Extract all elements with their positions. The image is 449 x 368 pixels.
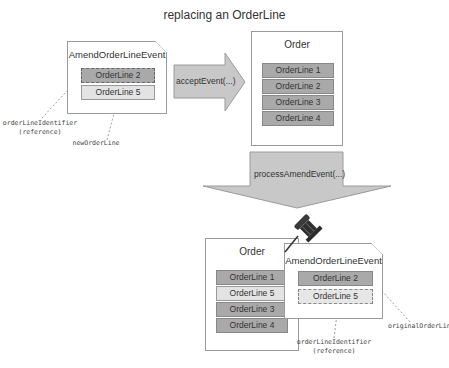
annotation-original-order-line: originalOrderLine	[388, 322, 448, 331]
pushpin-icon	[0, 0, 449, 368]
annotation-bottom-order-line-identifier: orderLineIdentifier (reference)	[296, 338, 372, 356]
